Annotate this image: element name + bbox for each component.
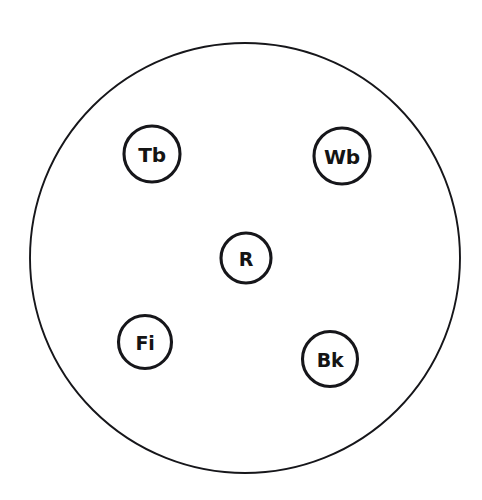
node-r[interactable]: R bbox=[221, 233, 271, 283]
node-tb-label: Tb bbox=[138, 143, 165, 167]
node-tb[interactable]: Tb bbox=[124, 126, 180, 182]
node-fi-label: Fi bbox=[136, 332, 155, 354]
node-wb[interactable]: Wb bbox=[314, 128, 370, 184]
node-bk-label: Bk bbox=[317, 349, 344, 371]
node-fi[interactable]: Fi bbox=[119, 316, 172, 369]
node-r-label: R bbox=[239, 248, 254, 270]
node-wb-label: Wb bbox=[324, 145, 360, 169]
node-bk[interactable]: Bk bbox=[303, 332, 358, 387]
diagram-svg: Tb Wb R Fi Bk bbox=[0, 0, 482, 500]
diagram-canvas: Tb Wb R Fi Bk bbox=[0, 0, 482, 500]
